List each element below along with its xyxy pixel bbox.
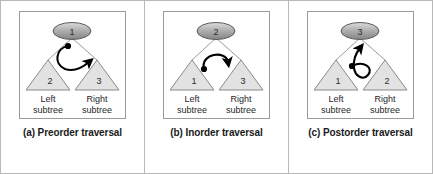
- root-node-value: 1: [69, 27, 74, 37]
- left-subtree-label-line2: subtree: [321, 105, 351, 115]
- caption-preorder: (a) Preorder traversal: [23, 127, 122, 139]
- left-subtree-value: 1: [335, 76, 340, 86]
- tree-edges-preorder: [48, 38, 97, 60]
- left-subtree-label-line1: Left: [40, 94, 56, 104]
- right-subtree-value: 3: [240, 76, 245, 86]
- traversal-figure: 2 3 1 Left subtree Rig: [0, 0, 433, 174]
- inorder-arrow: [201, 55, 228, 72]
- diagram-box-inorder: 1 3 2 Left subtree Right subtree: [163, 11, 270, 119]
- right-subtree-label-line2: subtree: [226, 105, 256, 115]
- right-subtree-value: 2: [384, 76, 389, 86]
- tree-edges-inorder: [192, 38, 241, 60]
- left-subtree-label-line1: Left: [328, 94, 344, 104]
- panel-preorder: 2 3 1 Left subtree Rig: [1, 1, 144, 173]
- left-subtree-label-line2: subtree: [33, 105, 63, 115]
- caption-postorder: (c) Postorder traversal: [308, 127, 412, 139]
- left-subtree-label-line1: Left: [184, 94, 200, 104]
- diagram-box-preorder: 2 3 1 Left subtree Rig: [19, 11, 126, 119]
- root-node-value: 2: [213, 27, 218, 37]
- panel-inorder: 1 3 2 Left subtree Right subtree: [144, 1, 288, 173]
- diagram-box-postorder: 1 2 3 Left subtree Right subtree: [307, 11, 414, 119]
- caption-inorder: (b) Inorder traversal: [170, 127, 262, 139]
- right-subtree-label-line1: Right: [374, 94, 396, 104]
- panel-postorder: 1 2 3 Left subtree Right subtree: [288, 1, 432, 173]
- right-subtree-label-line2: subtree: [82, 105, 112, 115]
- right-subtree-label-line2: subtree: [370, 105, 400, 115]
- left-subtree-value: 1: [191, 76, 196, 86]
- root-node-value: 3: [357, 27, 362, 37]
- left-subtree-value: 2: [47, 76, 52, 86]
- postorder-arrow: [349, 48, 370, 78]
- right-subtree-value: 3: [96, 76, 101, 86]
- left-subtree-label-line2: subtree: [177, 105, 207, 115]
- right-subtree-label-line1: Right: [230, 94, 252, 104]
- right-subtree-label-line1: Right: [86, 94, 108, 104]
